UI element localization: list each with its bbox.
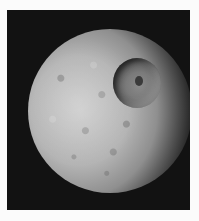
- crater-central-peak: [135, 76, 143, 86]
- space-background: [7, 10, 190, 210]
- large-impact-crater: [113, 58, 161, 108]
- moon-surface-craters: [28, 29, 190, 193]
- moon: [28, 29, 190, 193]
